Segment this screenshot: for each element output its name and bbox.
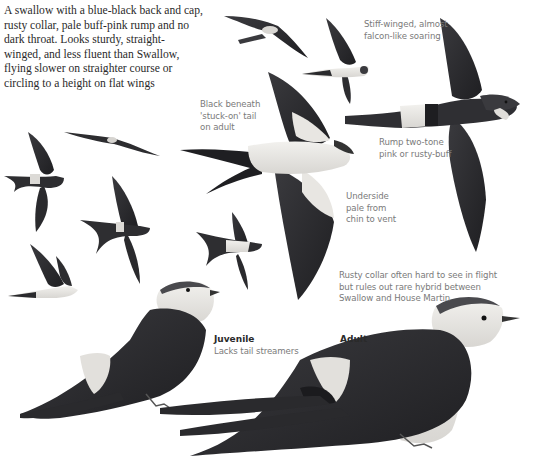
juvenile-label: Juvenile — [214, 334, 254, 344]
field-guide-plate: A swallow with a blue-black back and cap… — [0, 0, 536, 460]
annotation-soaring: Stiff-winged, almost falcon-like soaring — [364, 19, 448, 42]
swallow-flying-center-small — [196, 212, 262, 290]
swallow-flying-left-2 — [80, 176, 150, 284]
annotation-underside: Underside pale from chin to vent — [346, 191, 396, 226]
species-description: A swallow with a blue-black back and cap… — [4, 4, 234, 92]
swallow-flying-left-glide — [64, 132, 160, 156]
swallow-gliding-top — [224, 16, 308, 58]
annotation-rump: Rump two-tone pink or rusty-buff — [379, 137, 452, 160]
annotation-collar: Rusty collar often hard to see in flight… — [339, 270, 497, 305]
swallow-flying-left-1 — [4, 132, 64, 232]
juvenile-swallow-perched — [20, 281, 220, 419]
juvenile-note: Lacks tail streamers — [214, 346, 299, 358]
annotation-tail: Black beneath 'stuck-on' tail on adult — [200, 99, 260, 134]
swallow-flying-left-3 — [8, 244, 78, 298]
adult-swallow-perched — [160, 297, 520, 456]
swallow-soaring-small — [302, 18, 369, 104]
adult-label: Adult — [340, 334, 367, 344]
